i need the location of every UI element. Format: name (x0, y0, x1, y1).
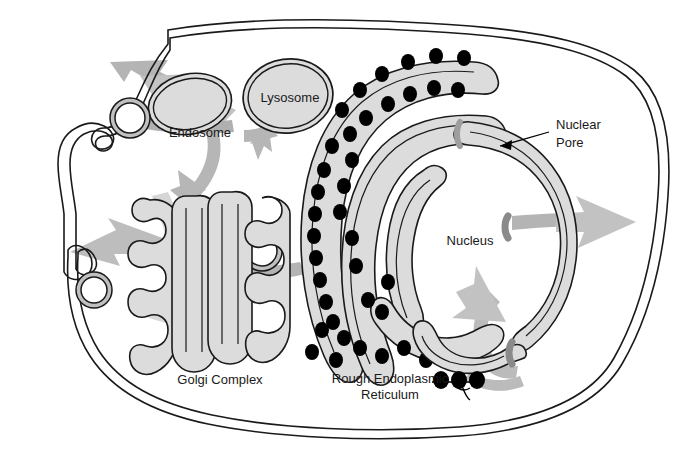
transport-vesicle-golgi-left (76, 272, 112, 308)
nuclear-pore-right (505, 216, 508, 238)
label-lysosome: Lysosome (261, 90, 320, 105)
label-endosome: Endosome (169, 125, 231, 140)
label-golgi-complex: Golgi Complex (177, 372, 263, 387)
cell-diagram-figure: Lysosome Endosome Nuclear Pore Nucleus G… (0, 0, 682, 464)
label-rough-er-line2: Reticulum (361, 387, 419, 402)
golgi-complex (128, 192, 290, 375)
label-nuclear-pore-line1: Nuclear (556, 117, 601, 132)
transport-vesicle-membrane (110, 98, 150, 138)
nuclear-pore-top (457, 122, 460, 146)
mrna-ribosome-2 (451, 371, 467, 389)
label-rough-er-line1: Rough Endoplasmic (332, 371, 449, 386)
label-nuclear-pore-line2: Pore (556, 135, 583, 150)
cell-diagram-canvas: Lysosome Endosome Nuclear Pore Nucleus G… (0, 0, 682, 464)
mrna-ribosome-3 (469, 371, 485, 389)
label-nucleus: Nucleus (447, 233, 494, 248)
rough-endoplasmic-reticulum (301, 61, 506, 385)
nuclear-pore-bottom (509, 342, 512, 364)
